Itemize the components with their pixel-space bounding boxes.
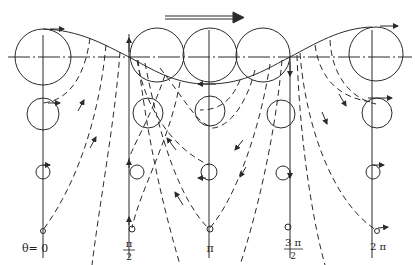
tiny-circles [41, 224, 380, 234]
orbital-trajectory-diagram: θ= 0 π 2 π 3 π 2 2 π [0, 0, 415, 265]
label-theta-0: θ= 0 [22, 242, 48, 255]
main-trajectory-curve [43, 27, 372, 84]
label-half-pi-den: 2 [126, 252, 132, 262]
label-pi: π [206, 242, 213, 255]
label-half-pi-num: π [126, 238, 133, 249]
small-circles [36, 164, 380, 180]
direction-arrow-icon [165, 12, 244, 23]
label-three-half-pi-den: 2 [290, 251, 296, 261]
label-two-pi: 2 π [370, 241, 387, 252]
flow-arrows [43, 94, 392, 228]
label-three-half-pi-num: 3 π [285, 237, 302, 248]
